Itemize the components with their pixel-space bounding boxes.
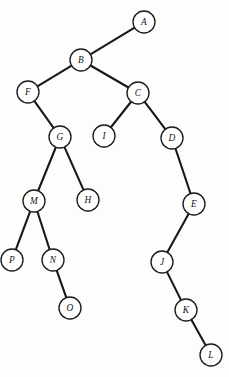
tree-edge-g-m xyxy=(38,147,56,192)
tree-edge-e-j xyxy=(167,213,189,253)
tree-node-n[interactable]: N xyxy=(42,249,64,271)
node-label-g: G xyxy=(57,132,64,142)
tree-edge-a-b xyxy=(90,27,135,54)
tree-node-m[interactable]: M xyxy=(23,190,45,212)
tree-edge-b-f xyxy=(37,65,72,86)
tree-node-b[interactable]: B xyxy=(70,49,92,71)
tree-node-j[interactable]: J xyxy=(151,251,173,273)
node-label-d: D xyxy=(168,133,176,143)
node-label-o: O xyxy=(67,303,74,313)
tree-edge-m-p xyxy=(16,211,31,250)
tree-edge-f-g xyxy=(34,101,54,129)
node-label-f: F xyxy=(24,87,31,97)
tree-edge-c-d xyxy=(144,101,165,129)
node-label-h: H xyxy=(84,195,93,205)
node-label-c: C xyxy=(135,88,142,98)
tree-node-h[interactable]: H xyxy=(77,189,99,211)
node-label-l: L xyxy=(207,350,213,360)
tree-node-o[interactable]: O xyxy=(59,297,81,319)
node-label-n: N xyxy=(49,255,57,265)
node-label-k: K xyxy=(182,305,190,315)
tree-diagram-canvas: ABFCGIDMHEPNJOKL xyxy=(0,0,229,377)
tree-node-c[interactable]: C xyxy=(127,82,149,104)
tree-edge-n-o xyxy=(57,270,67,298)
node-label-a: A xyxy=(140,17,147,27)
node-label-e: E xyxy=(190,199,197,209)
tree-node-g[interactable]: G xyxy=(49,126,71,148)
tree-node-a[interactable]: A xyxy=(133,11,155,33)
tree-edge-layer xyxy=(16,27,206,345)
node-label-b: B xyxy=(78,55,84,65)
tree-edge-k-l xyxy=(191,319,206,346)
tree-edge-m-n xyxy=(37,211,50,250)
tree-edge-d-e xyxy=(175,148,190,194)
tree-node-p[interactable]: P xyxy=(1,249,23,271)
tree-diagram: ABFCGIDMHEPNJOKL xyxy=(0,0,229,377)
tree-node-e[interactable]: E xyxy=(183,193,205,215)
tree-edge-j-k xyxy=(167,271,182,300)
tree-node-f[interactable]: F xyxy=(17,81,39,103)
node-label-p: P xyxy=(8,255,15,265)
node-label-m: M xyxy=(29,196,39,206)
tree-node-l[interactable]: L xyxy=(200,344,222,366)
tree-node-d[interactable]: D xyxy=(161,127,183,149)
tree-node-i[interactable]: I xyxy=(93,125,115,147)
tree-edge-b-c xyxy=(90,65,129,87)
tree-edge-c-i xyxy=(111,101,132,128)
tree-edge-g-h xyxy=(64,147,83,191)
tree-node-k[interactable]: K xyxy=(175,299,197,321)
